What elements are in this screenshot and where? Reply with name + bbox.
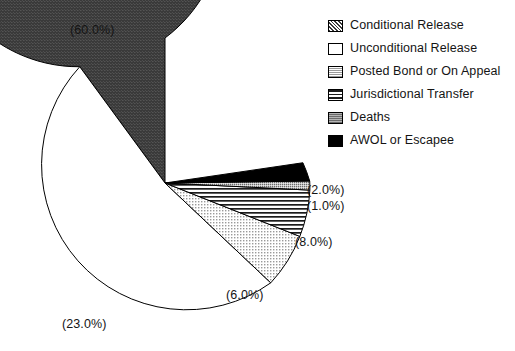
legend-item-awol-or-escapee[interactable]: AWOL or Escapee bbox=[328, 129, 514, 152]
legend-label-conditional-release: Conditional Release bbox=[350, 19, 464, 32]
legend-label-posted-bond: Posted Bond or On Appeal bbox=[350, 65, 500, 78]
legend-label-awol-or-escapee: AWOL or Escapee bbox=[350, 134, 454, 147]
legend-item-jurisdictional-transfer[interactable]: Jurisdictional Transfer bbox=[328, 83, 514, 106]
slice-label-posted-bond: (6.0%) bbox=[226, 289, 263, 302]
pie-slice-awol-or-escapee[interactable] bbox=[165, 163, 310, 183]
legend-item-deaths[interactable]: Deaths bbox=[328, 106, 514, 129]
slice-label-awol-or-escapee: (2.0%) bbox=[307, 184, 344, 197]
legend-item-unconditional-release[interactable]: Unconditional Release bbox=[328, 37, 514, 60]
solid-white-swatch-icon bbox=[328, 43, 343, 55]
solid-black-swatch-icon bbox=[328, 135, 343, 147]
stipple-light-gray-swatch-icon bbox=[328, 66, 343, 78]
legend-item-posted-bond[interactable]: Posted Bond or On Appeal bbox=[328, 60, 514, 83]
slice-label-unconditional-release: (23.0%) bbox=[62, 318, 106, 331]
solid-medium-gray-swatch-icon bbox=[328, 112, 343, 124]
slice-label-jurisdictional-transfer: (8.0%) bbox=[295, 236, 332, 249]
legend-label-deaths: Deaths bbox=[350, 111, 390, 124]
legend-item-conditional-release[interactable]: Conditional Release bbox=[328, 14, 514, 37]
legend-label-unconditional-release: Unconditional Release bbox=[350, 42, 477, 55]
chart-legend: Conditional Release Unconditional Releas… bbox=[328, 14, 514, 152]
legend-label-jurisdictional-transfer: Jurisdictional Transfer bbox=[350, 88, 474, 101]
pie-chart-figure: (60.0%) (23.0%) (6.0%) (8.0%) (1.0%) (2.… bbox=[0, 0, 515, 351]
cross-hatch-dark-swatch-icon bbox=[328, 20, 343, 32]
slice-label-deaths: (1.0%) bbox=[307, 200, 344, 213]
slice-label-conditional-release: (60.0%) bbox=[70, 24, 114, 37]
horizontal-lines-swatch-icon bbox=[328, 89, 343, 101]
